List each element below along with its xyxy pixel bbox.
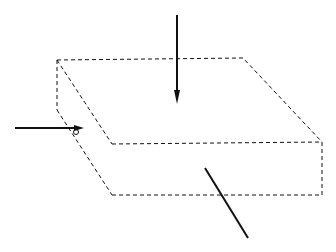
- magnetic-core-diagram: [0, 0, 336, 252]
- hy-arrow: [205, 168, 248, 238]
- hx-arrow: [15, 125, 84, 135]
- hz-arrow: [174, 15, 180, 104]
- slab-outline: [57, 58, 322, 195]
